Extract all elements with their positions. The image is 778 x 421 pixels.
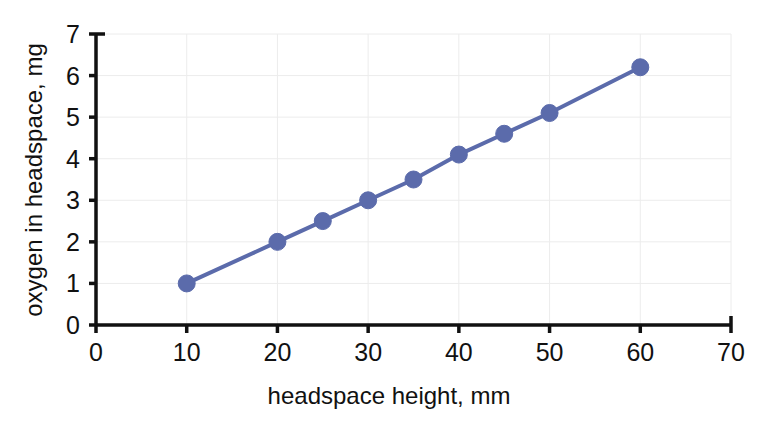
x-tick-label: 70 bbox=[717, 338, 745, 366]
x-tick-label: 40 bbox=[445, 338, 473, 366]
y-tick-label: 7 bbox=[66, 20, 80, 48]
data-point-marker bbox=[632, 59, 649, 76]
x-tick-label: 0 bbox=[89, 338, 103, 366]
data-point-marker bbox=[360, 192, 377, 209]
y-tick-label: 2 bbox=[66, 228, 80, 256]
x-tick-label: 10 bbox=[173, 338, 201, 366]
data-point-marker bbox=[496, 125, 513, 142]
x-tick-label: 30 bbox=[354, 338, 382, 366]
data-point-marker bbox=[314, 213, 331, 230]
y-tick-label: 5 bbox=[66, 103, 80, 131]
data-point-marker bbox=[541, 104, 558, 121]
x-tick-label: 50 bbox=[536, 338, 564, 366]
x-tick-label: 20 bbox=[264, 338, 292, 366]
x-tick-label: 60 bbox=[626, 338, 654, 366]
y-tick-label: 0 bbox=[66, 311, 80, 339]
y-tick-label: 1 bbox=[66, 269, 80, 297]
chart-container: 01234567010203040506070 headspace height… bbox=[0, 0, 778, 421]
y-tick-label: 3 bbox=[66, 186, 80, 214]
data-point-marker bbox=[450, 146, 467, 163]
chart-background bbox=[0, 0, 778, 421]
data-point-marker bbox=[269, 233, 286, 250]
data-point-marker bbox=[405, 171, 422, 188]
y-tick-label: 6 bbox=[66, 62, 80, 90]
y-axis-title: oxygen in headspace, mg bbox=[20, 43, 47, 317]
y-tick-label: 4 bbox=[66, 145, 80, 173]
data-point-marker bbox=[178, 275, 195, 292]
line-chart: 01234567010203040506070 headspace height… bbox=[0, 0, 778, 421]
x-axis-title: headspace height, mm bbox=[268, 382, 511, 409]
